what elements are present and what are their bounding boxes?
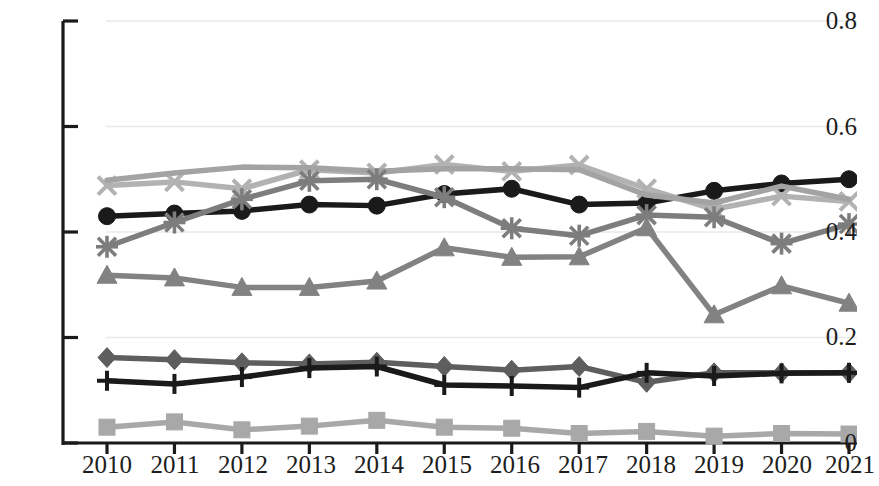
data-point-marker xyxy=(502,376,522,396)
series-series-asterisk-dark-gray xyxy=(96,168,857,258)
data-point-marker xyxy=(571,426,587,442)
data-point-marker xyxy=(97,371,117,391)
data-point-marker xyxy=(99,419,115,435)
data-point-marker xyxy=(704,366,724,386)
data-point-marker xyxy=(232,367,252,387)
data-point-marker xyxy=(98,348,116,368)
data-point-marker xyxy=(571,196,588,213)
y-axis-label-0: 0.8 xyxy=(801,8,857,33)
data-point-marker xyxy=(839,363,857,383)
data-point-marker xyxy=(298,170,320,192)
series-line xyxy=(107,420,849,436)
data-point-marker xyxy=(99,208,116,225)
data-point-marker xyxy=(366,168,388,190)
data-point-marker xyxy=(841,171,858,188)
data-point-marker xyxy=(434,375,454,395)
data-point-marker xyxy=(771,233,793,255)
data-point-marker xyxy=(503,180,520,197)
data-point-marker xyxy=(165,350,183,370)
data-point-marker xyxy=(570,357,588,377)
axis-ticks xyxy=(63,21,849,454)
y-axis-label-1: 0.6 xyxy=(801,114,857,139)
data-point-marker xyxy=(569,378,589,398)
data-point-marker xyxy=(96,236,118,258)
data-point-marker xyxy=(433,186,455,208)
series-line xyxy=(107,228,849,315)
gridlines xyxy=(106,21,857,338)
data-point-marker xyxy=(639,423,655,439)
series-series-triangle-gray xyxy=(97,218,857,323)
data-point-marker xyxy=(301,418,317,434)
y-axis-label-2: 0.4 xyxy=(801,219,857,244)
series-series-square-light-gray xyxy=(99,412,857,444)
data-point-marker xyxy=(706,428,722,444)
data-point-marker xyxy=(774,426,790,442)
data-point-marker xyxy=(231,188,253,210)
data-point-marker xyxy=(706,182,723,199)
data-point-marker xyxy=(435,357,453,377)
y-axis-label-3: 0.2 xyxy=(801,324,857,349)
data-point-marker xyxy=(504,420,520,436)
data-point-marker xyxy=(369,412,385,428)
data-point-marker xyxy=(163,212,185,234)
data-point-marker xyxy=(301,196,318,213)
data-point-marker xyxy=(368,197,385,214)
data-point-marker xyxy=(166,414,182,430)
data-point-marker xyxy=(164,374,184,394)
data-point-marker xyxy=(501,217,523,239)
data-point-marker xyxy=(234,422,250,438)
data-series-group xyxy=(96,155,857,444)
data-point-marker xyxy=(703,206,725,228)
data-point-marker xyxy=(772,363,792,383)
data-point-marker xyxy=(436,419,452,435)
x-axis-label-2021: 2021 xyxy=(794,452,879,477)
data-point-marker xyxy=(568,225,590,247)
